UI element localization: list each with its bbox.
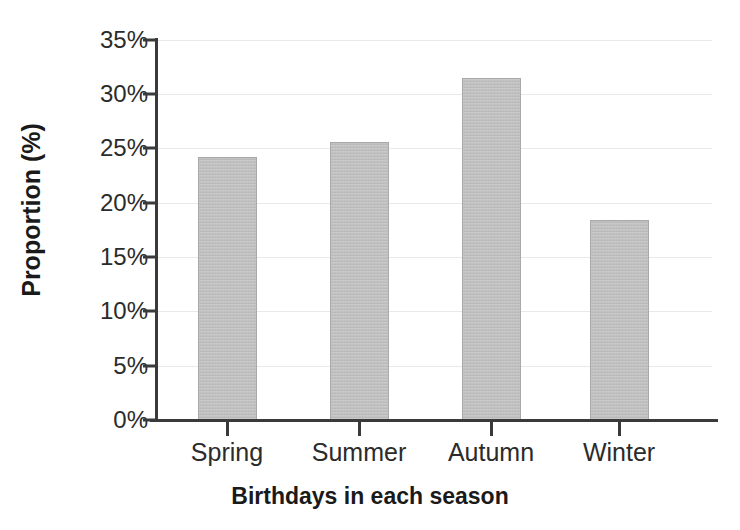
y-tick-label-35: 35% [62, 26, 148, 54]
x-tick-mark-winter [618, 422, 621, 436]
y-tick-label-25: 25% [62, 134, 148, 162]
bar-winter [590, 220, 649, 420]
y-tick-label-10: 10% [62, 297, 148, 325]
y-tick-label-5: 5% [62, 352, 148, 380]
plot-area [157, 40, 712, 420]
y-tick-label-30: 30% [62, 80, 148, 108]
x-tick-mark-autumn [490, 422, 493, 436]
bar-spring [198, 157, 257, 420]
y-axis-line [155, 38, 158, 422]
gridline-35 [157, 40, 712, 41]
y-axis-tick-labels: 35% 30% 25% 20% 15% 10% 5% 0% [62, 0, 148, 530]
x-tick-label-winter: Winter [529, 438, 709, 467]
gridline-25 [157, 148, 712, 149]
bar-autumn [462, 78, 521, 420]
x-axis-title: Birthdays in each season [0, 483, 740, 510]
y-tick-label-20: 20% [62, 189, 148, 217]
x-tick-mark-spring [226, 422, 229, 436]
y-tick-label-0: 0% [62, 406, 148, 434]
gridline-30 [157, 94, 712, 95]
y-tick-label-15: 15% [62, 243, 148, 271]
y-axis-title: Proportion (%) [0, 0, 62, 420]
x-tick-mark-summer [358, 422, 361, 436]
bar-summer [330, 142, 389, 420]
x-axis-line [150, 419, 718, 422]
bar-chart: Proportion (%) 35% 30% 25% 20% 15% 10% 5… [0, 0, 740, 530]
